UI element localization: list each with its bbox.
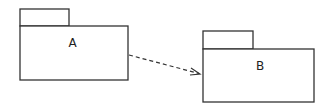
- diagram-canvas: A B: [0, 0, 331, 107]
- package-b-body: [203, 49, 314, 102]
- package-a-tab: [20, 9, 69, 26]
- package-a-label: A: [68, 36, 77, 50]
- package-a-body: [20, 26, 128, 80]
- package-a[interactable]: A: [20, 9, 128, 80]
- dependency-arrow[interactable]: [129, 55, 200, 75]
- package-b-label: B: [256, 59, 264, 73]
- dependency-line: [129, 55, 199, 74]
- package-b-tab: [203, 31, 253, 49]
- package-b[interactable]: B: [203, 31, 314, 102]
